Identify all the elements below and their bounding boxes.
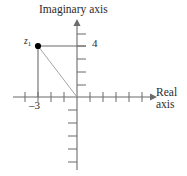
complex-plane-figure: Imaginary axis Real axis z1 4 –3 (0, 0, 187, 176)
imaginary-axis-title: Imaginary axis (39, 3, 108, 15)
real-axis-title: Real axis (156, 86, 177, 110)
real-axis-title-line1: Real (156, 86, 177, 98)
point-marker-z1 (35, 43, 41, 49)
point-label-z1: z1 (24, 37, 31, 48)
modulus-segment (38, 46, 77, 97)
real-axis-title-line2: axis (156, 98, 177, 110)
imaginary-axis-group (68, 19, 86, 170)
imaginary-value-label: 4 (92, 38, 98, 50)
point-label-subscript: 1 (28, 40, 32, 48)
real-value-label: –3 (29, 100, 40, 112)
imaginary-axis-arrowhead (73, 19, 80, 26)
